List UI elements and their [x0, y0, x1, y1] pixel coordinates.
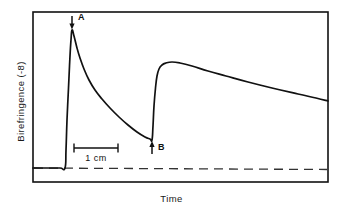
plot-canvas — [0, 0, 343, 212]
birefringence-time-figure: Birefringence (-8) Time A B 1 cm — [0, 0, 343, 212]
y-axis-label: Birefringence (-8) — [15, 42, 26, 162]
baseline-dashed-line — [34, 168, 327, 170]
birefringence-trace — [33, 30, 328, 170]
scale-bar-label: 1 cm — [66, 153, 126, 163]
marker-b-arrow — [149, 141, 154, 154]
marker-a-arrow — [69, 16, 74, 30]
x-axis-label: Time — [0, 193, 343, 204]
marker-b-label: B — [158, 142, 165, 152]
scale-bar — [74, 144, 118, 153]
marker-a-label: A — [78, 12, 85, 22]
